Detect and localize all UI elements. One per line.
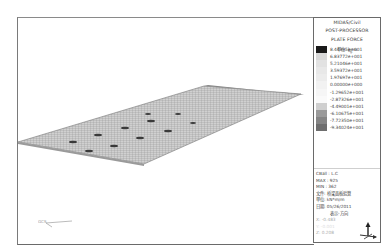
legend-program: MIDAS/Civil: [314, 18, 380, 26]
scale-value: -9.34024e+001: [330, 125, 364, 130]
scale-swatch: [316, 81, 327, 88]
scale-row: -7.72350e+001: [314, 117, 380, 124]
scale-swatch: [316, 67, 327, 74]
scale-value: 8.44395e+001: [330, 47, 362, 52]
max-node: MAX : 925: [316, 178, 352, 185]
z-coordinate: Z: 0.208: [316, 230, 352, 237]
plate-mesh-model: [18, 18, 314, 244]
gcs-axis-indicator: GCS: [38, 214, 78, 233]
scale-row: 6.83772e+001: [314, 53, 380, 60]
scale-value: 3.59372e+001: [330, 68, 362, 73]
view-axes-icon: [357, 222, 379, 242]
scale-row: 5.21046e+001: [314, 60, 380, 67]
scale-swatch: [316, 53, 327, 60]
x-coordinate: X: -0.483: [316, 217, 352, 224]
scale-value: 5.21046e+001: [330, 61, 362, 66]
min-node: MIN : 362: [316, 184, 352, 191]
scale-value: -7.72350e+001: [330, 118, 364, 123]
load-case: CBall : L.C: [316, 171, 352, 178]
scale-row: -4.49001e+001: [314, 103, 380, 110]
view-direction-label: 表示-方向: [316, 211, 352, 218]
y-coordinate: Y: -0.001: [316, 224, 352, 231]
legend-mode: POST-PROCESSOR: [314, 26, 380, 34]
scale-row: 0.00000e+000: [314, 81, 380, 88]
scale-value: -1.29652e+001: [330, 90, 364, 95]
scale-value: -6.10675e+001: [330, 111, 364, 116]
scale-swatch: [316, 96, 327, 103]
scale-swatch: [316, 74, 327, 81]
scale-swatch: [316, 117, 327, 124]
color-scale: 8.44395e+001 6.83772e+001 5.21046e+001 3…: [314, 46, 380, 131]
scale-row: 3.59372e+001: [314, 67, 380, 74]
scale-value: 0.00000e+000: [330, 82, 362, 87]
scale-swatch: [316, 103, 327, 110]
scale-value: -2.87326e+001: [330, 97, 364, 102]
legend-panel: MIDAS/Civil POST-PROCESSOR PLATE FORCE 単…: [313, 17, 381, 243]
legend-result-type: PLATE FORCE: [314, 35, 380, 43]
legend-divider: [314, 168, 380, 169]
scale-swatch: [316, 124, 327, 131]
scale-value: -4.49001e+001: [330, 104, 364, 109]
unit-label: 単位: kN*m/m: [316, 197, 352, 204]
scale-swatch: [316, 46, 327, 53]
scale-row: 8.44395e+001: [314, 46, 380, 53]
scale-row: -1.29652e+001: [314, 89, 380, 96]
scale-swatch: [316, 110, 327, 117]
scale-row: -6.10675e+001: [314, 110, 380, 117]
model-viewport[interactable]: GCS: [17, 17, 314, 245]
scale-row: 1.97697e+001: [314, 74, 380, 81]
scale-value: 6.83772e+001: [330, 54, 362, 59]
gcs-label: GCS: [38, 219, 47, 224]
scale-swatch: [316, 89, 327, 96]
date-label: 日期: 05/26/2011: [316, 204, 352, 211]
result-info: CBall : L.C MAX : 925 MIN : 362 文件: 桥梁面板…: [316, 171, 352, 237]
scale-row: -9.34024e+001: [314, 124, 380, 131]
scale-value: 1.97697e+001: [330, 75, 362, 80]
scale-row: -2.87326e+001: [314, 96, 380, 103]
scale-swatch: [316, 60, 327, 67]
